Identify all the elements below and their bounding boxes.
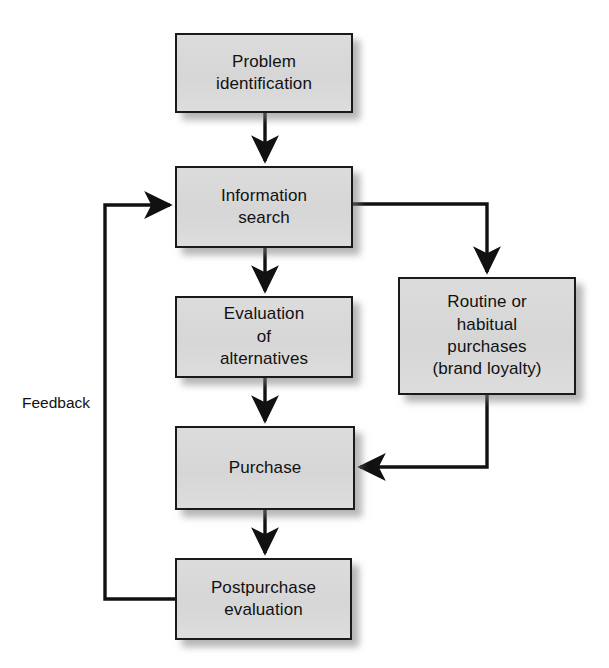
edge-information-to-routine: [353, 204, 487, 272]
node-routine-habitual-purchases: Routine or habitual purchases (brand loy…: [398, 277, 576, 395]
node-purchase: Purchase: [175, 426, 355, 510]
feedback-label: Feedback: [22, 394, 90, 412]
flowchart-canvas: Problem identification Information searc…: [0, 0, 609, 668]
node-information-search: Information search: [175, 166, 353, 248]
node-postpurchase-evaluation: Postpurchase evaluation: [175, 558, 352, 640]
node-problem-identification: Problem identification: [175, 33, 353, 113]
node-evaluation-of-alternatives: Evaluation of alternatives: [175, 296, 353, 378]
edge-routine-to-purchase: [360, 395, 487, 467]
edge-postpurchase-to-information: [105, 205, 175, 599]
